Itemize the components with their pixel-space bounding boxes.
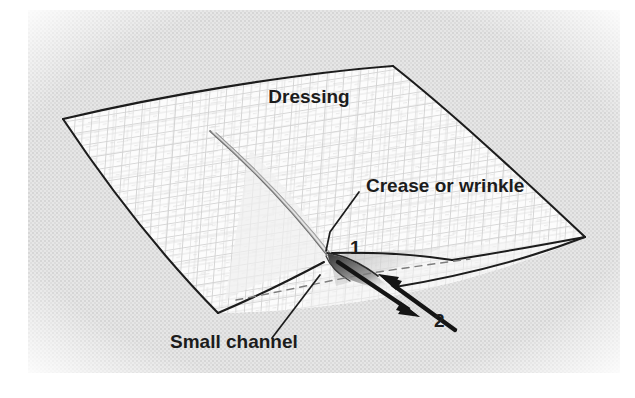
illustration-canvas: Dressing Crease or wrinkle Small channel… (0, 0, 635, 398)
label-dressing: Dressing (268, 86, 349, 107)
label-arrow-2: 2 (434, 310, 445, 331)
label-arrow-1: 1 (350, 237, 361, 258)
label-crease-or-wrinkle: Crease or wrinkle (366, 175, 524, 196)
illustration-figure: Dressing Crease or wrinkle Small channel… (0, 0, 635, 398)
label-small-channel: Small channel (170, 331, 298, 352)
